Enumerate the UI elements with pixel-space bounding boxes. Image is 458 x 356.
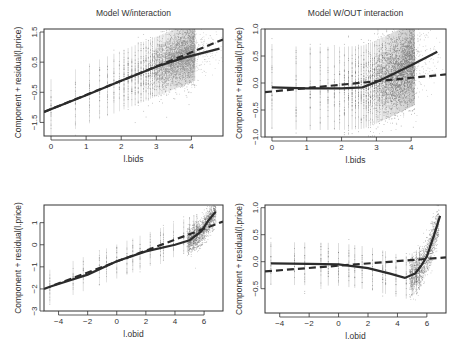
y-axis-label: Component + residual(l.price) [13,202,23,314]
y-tick-label: 0.0 [251,256,260,268]
smooth-fit-line [271,216,440,278]
x-tick-label: 4 [189,142,194,151]
x-tick-label: 4 [173,317,178,326]
y-tick-label: 1.0 [251,202,260,214]
x-tick-label: 0 [270,143,275,152]
y-tick-label: 0.5 [251,229,260,241]
x-tick-label: −2 [305,319,315,328]
y-axis-label: Component + residual(l.price) [13,26,23,138]
x-tick-label: 2 [119,142,124,151]
y-tick-label: −0.5 [30,84,39,100]
scatter-points [51,14,247,139]
plot-frame [44,205,223,311]
x-axis-label: l.obid [345,331,366,341]
x-tick-label: 0 [336,319,341,328]
panel-bottom-left: −4−20246−3−2−101l.obidComponent + residu… [13,198,223,339]
y-tick-label: −0.5 [251,102,260,118]
y-tick-label: −0.5 [251,280,260,296]
y-tick-label: 1.5 [30,26,39,38]
y-axis-label: Component + residual(l.price) [234,203,244,315]
x-tick-label: 1 [305,143,310,152]
y-tick-label: −1 [30,262,39,272]
x-axis-label: l.obid [123,329,144,339]
x-tick-label: 0 [115,317,120,326]
y-tick-label: −1.5 [30,114,39,130]
panel-top-right: 01234−1.0−0.50.00.51.0l.bidsComponent + … [234,5,448,165]
x-tick-label: 2 [366,319,371,328]
y-tick-label: 1.0 [251,23,260,35]
x-tick-label: 4 [395,319,400,328]
y-tick-label: 0.5 [30,56,39,68]
x-tick-label: 3 [154,142,159,151]
scatter-points [270,194,439,300]
y-tick-label: 0.0 [251,77,260,89]
x-tick-label: 6 [425,319,430,328]
x-axis-label: l.bids [124,154,144,164]
x-tick-label: 4 [409,143,414,152]
panel-bottom-right: −4−20246−0.50.00.51.0l.obidComponent + r… [234,194,446,341]
y-axis-label: Component + residual(l.price) [234,27,244,139]
scatter-points [272,5,449,145]
y-tick-label: −3 [30,306,39,316]
x-tick-label: 2 [144,317,149,326]
x-tick-label: 0 [49,142,54,151]
y-tick-label: −2 [30,284,39,294]
panel-title: Model W/interaction [96,8,171,18]
x-tick-label: −4 [275,319,285,328]
y-tick-label: −1.0 [251,129,260,145]
x-axis-label: l.bids [346,155,366,165]
partial-residual-figure: 01234−1.5−0.50.51.5l.bidsComponent + res… [0,0,458,356]
x-tick-label: −2 [83,317,93,326]
plot-frame [44,29,223,136]
x-tick-label: 3 [374,143,379,152]
x-tick-label: 6 [202,317,207,326]
panel-title: Model W/OUT interaction [308,8,404,18]
y-tick-label: 0 [30,242,39,247]
y-tick-label: 0.5 [251,50,260,62]
x-tick-label: 1 [84,142,89,151]
x-tick-label: 2 [339,143,344,152]
x-tick-label: −4 [54,317,64,326]
panel-top-left: 01234−1.5−0.50.51.5l.bidsComponent + res… [13,8,246,164]
scatter-points [49,198,216,305]
y-tick-label: 1 [30,220,39,225]
